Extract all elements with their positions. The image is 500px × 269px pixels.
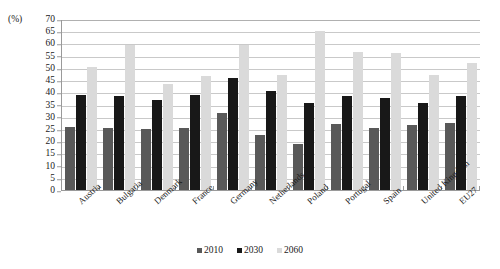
bar-chart: (%) 0510152025303540455055606570 Austria… <box>0 0 500 269</box>
y-axis-tick-label: 10 <box>46 162 56 172</box>
y-axis: 0510152025303540455055606570 <box>0 20 61 191</box>
bar-groups <box>62 20 480 190</box>
bar-group <box>176 20 214 190</box>
x-axis-category-labels: AustriaBulgariaDenmarkFranceGermanyNethe… <box>61 191 480 243</box>
bar-2010 <box>103 128 113 190</box>
legend-label: 2030 <box>244 246 263 256</box>
y-axis-tick-label: 60 <box>46 40 56 50</box>
legend-label: 2010 <box>204 246 223 256</box>
bar-2060 <box>163 84 173 190</box>
legend-swatch-2010 <box>197 248 202 253</box>
bar-2060 <box>467 63 477 190</box>
x-axis-category-cell: Bulgaria <box>99 191 137 243</box>
bar-2030 <box>152 100 162 190</box>
x-axis-category-cell: Germany <box>213 191 251 243</box>
legend-item-2010[interactable]: 2010 <box>197 246 223 256</box>
bar-2060 <box>239 45 249 190</box>
bar-2060 <box>315 31 325 190</box>
x-axis-category-cell: Poland <box>290 191 328 243</box>
bar-2010 <box>407 125 417 190</box>
bar-2030 <box>114 96 124 190</box>
y-axis-tick-label: 25 <box>46 125 56 135</box>
bar-2010 <box>369 128 379 190</box>
legend: 201020302060 <box>0 246 500 256</box>
y-axis-tick-label: 70 <box>46 15 56 25</box>
bar-2010 <box>65 127 75 191</box>
bar-group <box>138 20 176 190</box>
x-axis-category-cell: Austria <box>61 191 99 243</box>
legend-swatch-2030 <box>237 248 242 253</box>
y-axis-tick-label: 15 <box>46 150 56 160</box>
bar-2060 <box>125 45 135 190</box>
x-axis-category-cell: EU27 <box>442 191 480 243</box>
y-axis-tick-label: 45 <box>46 76 56 86</box>
y-axis-tick-label: 55 <box>46 52 56 62</box>
y-axis-tick-label: 50 <box>46 64 56 74</box>
bar-2010 <box>217 113 227 190</box>
bar-2060 <box>87 67 97 190</box>
y-axis-tick-label: 65 <box>46 27 56 37</box>
bar-2030 <box>76 95 86 190</box>
bar-2030 <box>266 91 276 190</box>
bar-2030 <box>380 98 390 190</box>
bar-2060 <box>353 52 363 190</box>
bar-group <box>328 20 366 190</box>
bar-group <box>366 20 404 190</box>
bar-2030 <box>418 103 428 190</box>
plot-area <box>61 20 480 191</box>
bar-2060 <box>277 75 287 190</box>
y-axis-tick-label: 5 <box>50 174 55 184</box>
x-axis-category-cell: United Kingdom <box>404 191 442 243</box>
bar-2030 <box>228 78 238 190</box>
bar-2060 <box>429 75 439 190</box>
bar-2060 <box>201 76 211 190</box>
x-axis-category-cell: Netherlands <box>251 191 289 243</box>
bar-group <box>62 20 100 190</box>
x-axis-category-cell: Portugal <box>328 191 366 243</box>
bar-group <box>214 20 252 190</box>
y-axis-tick-label: 35 <box>46 101 56 111</box>
bar-2030 <box>190 95 200 190</box>
bar-2010 <box>331 124 341 190</box>
bar-group <box>252 20 290 190</box>
bar-group <box>100 20 138 190</box>
legend-item-2060[interactable]: 2060 <box>277 246 303 256</box>
bar-group <box>290 20 328 190</box>
y-axis-tick-label: 40 <box>46 89 56 99</box>
legend-swatch-2060 <box>277 248 282 253</box>
y-axis-tick-label: 0 <box>50 186 55 196</box>
bar-2060 <box>391 53 401 190</box>
bar-group <box>404 20 442 190</box>
bar-2010 <box>141 129 151 190</box>
y-axis-tick-label: 20 <box>46 137 56 147</box>
bar-2030 <box>342 96 352 190</box>
x-axis-category-cell: Denmark <box>137 191 175 243</box>
x-axis-tickmark <box>479 186 480 190</box>
legend-label: 2060 <box>284 246 303 256</box>
x-axis-category-cell: France <box>175 191 213 243</box>
legend-item-2030[interactable]: 2030 <box>237 246 263 256</box>
x-axis-category-cell: Spain <box>366 191 404 243</box>
y-axis-tick-label: 30 <box>46 113 56 123</box>
